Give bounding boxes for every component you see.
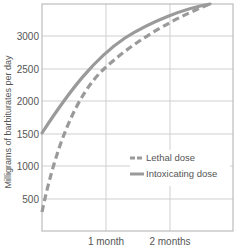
y-tick-500: 500: [22, 194, 39, 205]
x-tick-1-month: 1 month: [88, 236, 124, 247]
x-tick-2-months: 2 months: [149, 236, 190, 247]
x-axis-ticks: 1 month 2 months: [88, 236, 191, 247]
y-axis-ticks: 3000 2500 2000 1500 1000 500: [17, 31, 40, 205]
plot-frame: [42, 4, 233, 231]
legend-intox-label: Intoxicating dose: [146, 168, 217, 179]
chart: Lethal dose Intoxicating dose 3000 2500 …: [0, 0, 238, 251]
y-tick-1500: 1500: [17, 129, 40, 140]
y-tick-3000: 3000: [17, 31, 40, 42]
y-axis-label: Milligrams of barbiturates per day: [3, 55, 13, 189]
legend-lethal-label: Lethal dose: [146, 152, 195, 163]
y-tick-1000: 1000: [17, 161, 40, 172]
y-tick-2000: 2000: [17, 96, 40, 107]
y-tick-2500: 2500: [17, 64, 40, 75]
grid: [42, 4, 233, 231]
